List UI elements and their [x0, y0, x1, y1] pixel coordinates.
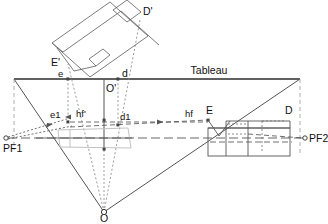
- rotated-box-inner-edge-2: [52, 43, 63, 52]
- right-box-hidden-edges-group: [228, 121, 286, 152]
- pf1-leader-lower: [8, 126, 72, 139]
- label-E-right: E: [206, 104, 213, 116]
- rotated-box-notch: [89, 49, 110, 66]
- pf1-point: [4, 136, 8, 140]
- label-pf2: PF2: [309, 132, 328, 144]
- triangle-right-side: [104, 79, 300, 212]
- label-d-prime: D': [143, 5, 153, 17]
- pf2-point: [303, 136, 307, 140]
- triangle-left-side: [14, 79, 104, 212]
- label-d1: d1: [120, 111, 131, 122]
- label-D-right: D: [285, 104, 293, 116]
- O-point-marker: [101, 209, 106, 214]
- label-e-small: e: [58, 68, 63, 79]
- vertex-dot-e1: [66, 120, 69, 123]
- label-d-small: d: [122, 67, 128, 79]
- label-hf-prime: hf': [76, 108, 86, 119]
- label-e-prime: E': [51, 56, 60, 68]
- measure-lines-group: [8, 115, 208, 140]
- perspective-construction-diagram: Tableau D' E' e d O' e1 hf' d1 hf E D PF…: [0, 0, 328, 224]
- diagram-canvas: Tableau D' E' e d O' e1 hf' d1 hf E D PF…: [0, 0, 328, 224]
- label-pf1: PF1: [3, 142, 22, 154]
- measure-line-lower: [70, 120, 208, 127]
- vertex-dot-d: [116, 77, 119, 80]
- pf1-leader-upper: [8, 118, 70, 137]
- arrow-e1: [65, 115, 71, 120]
- label-hf: hf: [185, 108, 193, 119]
- vertex-dot-axis-mid: [103, 119, 106, 122]
- rotated-box-inner-edge: [63, 11, 159, 52]
- rotated-box-corner-square: [113, 0, 141, 22]
- label-e1: e1: [50, 109, 61, 120]
- main-triangle-group: [14, 79, 300, 212]
- right-box-group: [208, 121, 290, 156]
- pf2-connector: [248, 134, 303, 138]
- label-o-prime: O': [106, 82, 116, 94]
- rotated-box-outer: [52, 2, 148, 77]
- vertex-dot-d1: [116, 123, 119, 126]
- label-tableau: Tableau: [191, 64, 228, 76]
- vertex-dot-axis-low: [103, 148, 106, 151]
- vertex-dot-e: [66, 77, 69, 80]
